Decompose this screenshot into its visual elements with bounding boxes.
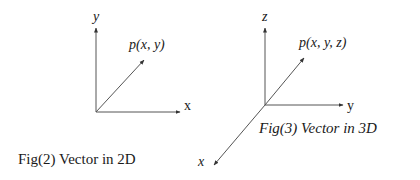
axis-x-3d xyxy=(214,105,265,165)
axis-label-x-2d: x xyxy=(184,99,191,113)
vector-3d xyxy=(265,58,304,105)
axis-label-z-3d: z xyxy=(262,10,267,24)
caption-fig2: Fig(2) Vector in 2D xyxy=(18,152,136,167)
axis-label-y-3d: y xyxy=(347,99,354,113)
caption-fig3: Fig(3) Vector in 3D xyxy=(259,121,377,136)
point-label-3d: p(x, y, z) xyxy=(299,36,346,50)
vector-2d xyxy=(96,60,144,112)
axis-label-y-2d: y xyxy=(93,10,99,24)
point-label-2d: p(x, y) xyxy=(129,38,165,52)
axis-label-x-3d: x xyxy=(198,155,204,169)
